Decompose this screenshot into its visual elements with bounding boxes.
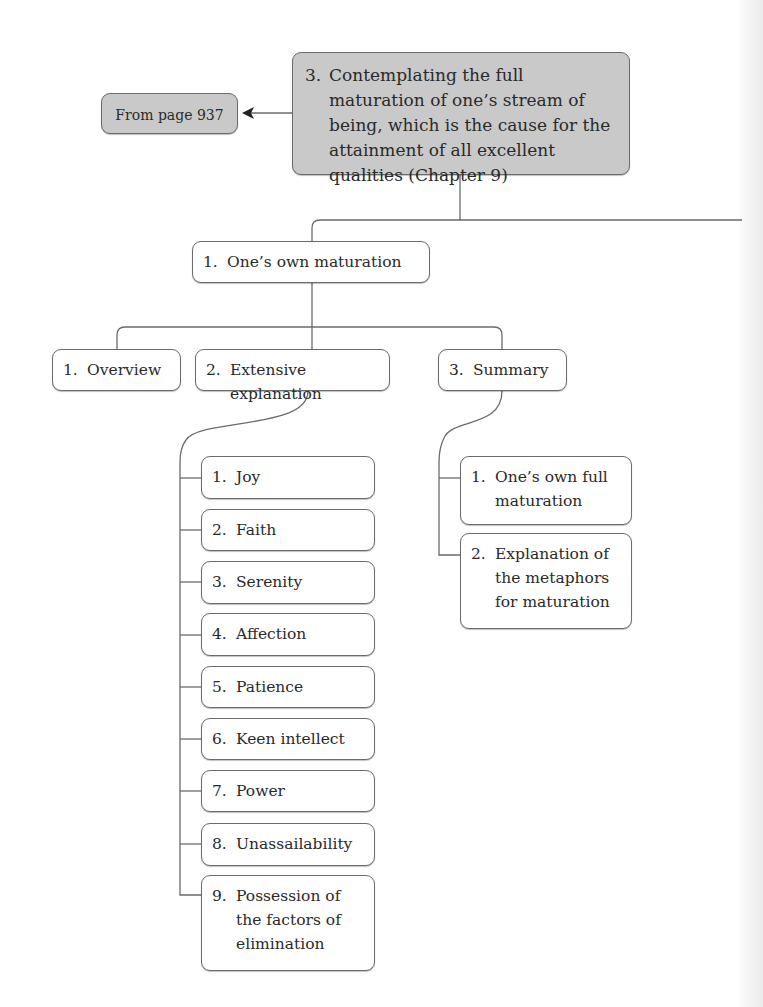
node-number: 1. (63, 358, 87, 382)
node-ones-own-maturation: 1. One’s own maturation (192, 241, 430, 283)
node-number: 4. (212, 622, 236, 646)
node-number: 8. (212, 832, 236, 856)
node-joy: 1.Joy (201, 456, 375, 499)
root-label: Contemplating the full maturation of one… (329, 63, 617, 188)
node-label: Serenity (236, 570, 364, 594)
node-explanation-of-metaphors: 2.Explanation of the metaphors for matur… (460, 533, 632, 629)
from-page-label: From page 937 (115, 107, 223, 123)
node-serenity: 3.Serenity (201, 561, 375, 604)
node-label: Extensive explanation (230, 358, 379, 406)
node-possession-of-factors: 9.Possession of the factors of eliminati… (201, 875, 375, 971)
node-keen-intellect: 6.Keen intellect (201, 718, 375, 760)
node-number: 2. (471, 542, 495, 614)
from-page-link[interactable]: From page 937 (101, 93, 238, 134)
node-number: 6. (212, 727, 236, 751)
node-label: Power (236, 779, 364, 803)
node-label: One’s own full maturation (495, 465, 621, 513)
root-node: 3. Contemplating the full maturation of … (292, 52, 630, 175)
node-number: 1. (203, 250, 227, 274)
node-faith: 2.Faith (201, 509, 375, 551)
node-label: Keen intellect (236, 727, 364, 751)
node-affection: 4.Affection (201, 613, 375, 656)
node-overview: 1. Overview (52, 349, 181, 391)
node-label: Unassailability (236, 832, 364, 856)
node-label: Summary (473, 358, 556, 382)
node-number: 9. (212, 884, 236, 956)
node-label: One’s own maturation (227, 250, 419, 274)
root-number: 3. (305, 63, 329, 188)
node-number: 2. (206, 358, 230, 406)
node-patience: 5.Patience (201, 666, 375, 708)
node-unassailability: 8.Unassailability (201, 823, 375, 866)
node-number: 3. (212, 570, 236, 594)
node-ones-own-full-maturation: 1.One’s own full maturation (460, 456, 632, 525)
node-number: 1. (471, 465, 495, 513)
node-label: Explanation of the metaphors for maturat… (495, 542, 621, 614)
node-power: 7.Power (201, 770, 375, 812)
node-label: Patience (236, 675, 364, 699)
node-label: Affection (236, 622, 364, 646)
node-summary: 3. Summary (438, 349, 567, 391)
node-number: 5. (212, 675, 236, 699)
node-label: Faith (236, 518, 364, 542)
node-label: Possession of the factors of elimination (236, 884, 364, 956)
node-number: 2. (212, 518, 236, 542)
node-number: 7. (212, 779, 236, 803)
node-label: Joy (236, 465, 364, 489)
node-number: 1. (212, 465, 236, 489)
node-extensive-explanation: 2. Extensive explanation (195, 349, 390, 391)
node-number: 3. (449, 358, 473, 382)
node-label: Overview (87, 358, 170, 382)
